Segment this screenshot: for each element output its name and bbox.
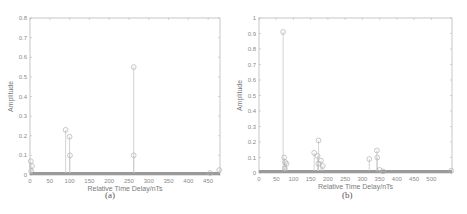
y-tick-label: 0.6	[19, 54, 28, 60]
caption-b: (b)	[342, 190, 353, 200]
x-tick-label: 150	[84, 178, 95, 184]
x-tick-label: 150	[306, 176, 317, 182]
x-tick-label: 250	[340, 176, 351, 182]
stem-plot-b: 00.10.20.30.40.50.60.70.80.9105010015020…	[233, 0, 467, 214]
y-tick-label: 0.7	[19, 35, 28, 41]
y-tick-label: 0.6	[248, 77, 257, 83]
chart-panel-b: 00.10.20.30.40.50.60.70.80.9105010015020…	[233, 0, 467, 214]
y-tick-label: 0	[253, 170, 257, 176]
y-tick-label: 0.8	[19, 15, 28, 21]
y-tick-label: 0.8	[248, 46, 257, 52]
y-tick-label: 0.3	[19, 113, 28, 119]
x-tick-label: 0	[257, 176, 261, 182]
x-axis-label: Relative Time Delay/nTs	[87, 185, 163, 193]
plot-frame	[259, 18, 452, 173]
y-tick-label: 0.4	[248, 108, 257, 114]
y-tick-label: 0.2	[19, 133, 28, 139]
x-tick-label: 50	[273, 176, 280, 182]
y-tick-label: 0.3	[248, 124, 257, 130]
caption-a: (a)	[105, 190, 115, 200]
x-tick-label: 300	[144, 178, 155, 184]
y-tick-label: 0.7	[248, 62, 257, 68]
chart-panel-a: 00.10.20.30.40.50.60.70.8050100150200250…	[0, 0, 233, 214]
zero-stem-band	[259, 170, 452, 173]
y-axis-label: Amplitude	[236, 80, 244, 111]
y-axis-label: Amplitude	[7, 81, 15, 112]
y-tick-label: 0.1	[19, 152, 28, 158]
x-tick-label: 300	[357, 176, 368, 182]
y-tick-label: 1	[253, 15, 257, 21]
x-tick-label: 100	[288, 176, 299, 182]
y-tick-label: 0.5	[248, 93, 257, 99]
y-tick-label: 0.5	[19, 74, 28, 80]
y-tick-label: 0.4	[19, 94, 28, 100]
x-tick-label: 400	[392, 176, 403, 182]
x-tick-label: 200	[104, 178, 115, 184]
x-tick-label: 350	[375, 176, 386, 182]
zero-stem-band	[30, 172, 220, 175]
stem-plot-a: 00.10.20.30.40.50.60.70.8050100150200250…	[0, 0, 233, 214]
x-tick-label: 350	[164, 178, 175, 184]
y-tick-label: 0	[24, 172, 28, 178]
x-tick-label: 450	[409, 176, 420, 182]
x-tick-label: 100	[65, 178, 76, 184]
x-axis-label: Relative Time Delay/nTs	[318, 183, 394, 191]
x-tick-label: 250	[124, 178, 135, 184]
y-tick-label: 0.2	[248, 139, 257, 145]
x-tick-label: 0	[28, 178, 32, 184]
x-tick-label: 400	[183, 178, 194, 184]
x-tick-label: 500	[426, 176, 437, 182]
plot-frame	[30, 18, 220, 175]
x-tick-label: 50	[46, 178, 53, 184]
x-tick-label: 450	[203, 178, 214, 184]
y-tick-label: 0.1	[248, 155, 257, 161]
y-tick-label: 0.9	[248, 31, 257, 37]
x-tick-label: 200	[323, 176, 334, 182]
